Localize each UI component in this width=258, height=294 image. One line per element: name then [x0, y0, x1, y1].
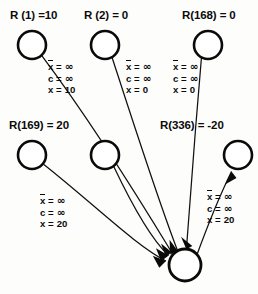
x-value: 10: [65, 84, 75, 95]
edge-label-n2-c-row: c = ∞: [126, 73, 151, 85]
edge-label-n2-x-row: x = 0: [126, 84, 151, 96]
node-r1[interactable]: [18, 31, 46, 59]
flow-diagram-svg: [0, 0, 258, 294]
node-r169[interactable]: [18, 141, 46, 169]
xbar-symbol: x: [40, 195, 45, 207]
xbar-symbol: x: [48, 61, 53, 73]
edge-nmid-to-sink: [114, 166, 169, 261]
node-middle[interactable]: [91, 141, 119, 169]
node-label-r169: R(169) = 20: [9, 119, 69, 131]
arrowhead-n336: [225, 172, 237, 185]
infinity-glyph: ∞: [57, 194, 65, 206]
node-label-r1: R (1) =10: [10, 9, 57, 21]
infinity-glyph: ∞: [143, 72, 151, 84]
node-label-r2-text: R (2) = 0: [84, 9, 128, 21]
infinity-glyph: ∞: [224, 190, 232, 202]
edge-label-n168-x-row: x = 0: [173, 84, 198, 96]
node-label-r1-text: R (1) =10: [10, 9, 57, 21]
edge-label-n336: x = ∞ c = ∞ x = 20: [207, 191, 234, 226]
x-value: 20: [224, 214, 234, 225]
xbar-symbol: x: [126, 61, 131, 73]
infinity-glyph: ∞: [65, 72, 73, 84]
infinity-glyph: ∞: [65, 60, 73, 72]
edge-label-n1-c-row: c = ∞: [48, 73, 75, 85]
infinity-glyph: ∞: [224, 202, 232, 214]
node-r168[interactable]: [194, 31, 222, 59]
node-sink[interactable]: [169, 249, 201, 281]
edge-label-n1-x-row: x = 10: [48, 84, 75, 96]
edge-label-n1: x = ∞ c = ∞ x = 10: [48, 61, 75, 96]
edge-label-n169: x = ∞ c = ∞ x = 20: [40, 195, 67, 230]
x-value: 20: [57, 218, 67, 229]
node-r336[interactable]: [224, 141, 252, 169]
xbar-symbol: x: [207, 191, 212, 203]
flow-diagram-canvas: R (1) =10 R (2) = 0 R(168) = 0 R(169) = …: [0, 0, 258, 294]
infinity-glyph: ∞: [57, 206, 65, 218]
node-label-r168-text: R(168) = 0: [182, 9, 236, 21]
infinity-glyph: ∞: [190, 60, 198, 72]
edge-label-n169-x-row: x = 20: [40, 218, 67, 230]
node-r2[interactable]: [91, 31, 119, 59]
xbar-symbol: x: [173, 61, 178, 73]
edge-label-n169-c-row: c = ∞: [40, 207, 67, 219]
edge-label-n336-x-row: x = 20: [207, 214, 234, 226]
infinity-glyph: ∞: [190, 72, 198, 84]
node-label-r336: R(336) = -20: [160, 119, 224, 131]
x-value: 0: [143, 84, 148, 95]
edge-label-n336-c-row: c = ∞: [207, 203, 234, 215]
node-label-r169-text: R(169) = 20: [9, 119, 69, 131]
node-label-r168: R(168) = 0: [182, 9, 236, 21]
edge-label-n168: x = ∞ c = ∞ x = 0: [173, 61, 198, 96]
x-value: 0: [190, 84, 195, 95]
edge-label-n168-c-row: c = ∞: [173, 73, 198, 85]
node-label-r336-text: R(336) = -20: [160, 119, 224, 131]
infinity-glyph: ∞: [143, 60, 151, 72]
edge-path-nmid: [114, 166, 169, 256]
node-label-r2: R (2) = 0: [84, 9, 128, 21]
edge-label-n2: x = ∞ c = ∞ x = 0: [126, 61, 151, 96]
